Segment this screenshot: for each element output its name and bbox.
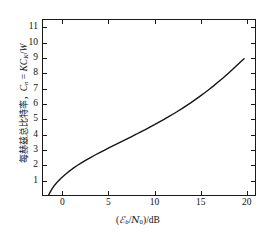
y-tick-mark bbox=[42, 119, 47, 120]
y-tick-mark-right bbox=[251, 104, 256, 105]
x-tick-mark-top bbox=[247, 19, 248, 24]
y-axis-title-k: K bbox=[19, 65, 29, 71]
x-axis-title-unit: dB bbox=[149, 215, 160, 225]
x-axis-title-n0: N bbox=[131, 214, 139, 225]
y-tick-mark bbox=[42, 89, 47, 90]
y-axis-title: 每赫兹总比特率，Cn = KCK/W bbox=[17, 11, 30, 197]
y-tick-mark bbox=[42, 58, 47, 59]
y-axis-title-symbol: C bbox=[19, 85, 29, 91]
y-tick-mark bbox=[42, 104, 47, 105]
y-tick-mark bbox=[42, 150, 47, 151]
y-tick-mark-right bbox=[251, 150, 256, 151]
y-tick-mark-right bbox=[251, 119, 256, 120]
y-tick-mark bbox=[42, 43, 47, 44]
x-tick-label: 5 bbox=[95, 198, 121, 208]
x-tick-mark bbox=[108, 191, 109, 196]
x-tick-mark bbox=[201, 191, 202, 196]
y-axis-title-equals: = bbox=[19, 71, 29, 81]
y-axis-title-cjk: 每赫兹总比特率， bbox=[19, 91, 29, 163]
y-tick-mark-right bbox=[251, 58, 256, 59]
chart-figure: 123456789101105101520 (ℰb/N0)/dB 每赫兹总比特率… bbox=[0, 0, 276, 237]
y-tick-mark bbox=[42, 135, 47, 136]
y-axis-title-symbol-sub: n bbox=[22, 82, 29, 85]
y-tick-mark bbox=[42, 73, 47, 74]
y-tick-mark-right bbox=[251, 181, 256, 182]
x-tick-mark bbox=[62, 191, 63, 196]
y-tick-mark bbox=[42, 27, 47, 28]
x-tick-mark-top bbox=[108, 19, 109, 24]
y-tick-mark-right bbox=[251, 27, 256, 28]
x-tick-mark bbox=[155, 191, 156, 196]
y-tick-mark bbox=[42, 181, 47, 182]
x-tick-mark-top bbox=[62, 19, 63, 24]
y-tick-mark bbox=[42, 165, 47, 166]
y-tick-mark-right bbox=[251, 135, 256, 136]
x-tick-label: 15 bbox=[188, 198, 214, 208]
x-tick-label: 0 bbox=[49, 198, 75, 208]
y-tick-mark-right bbox=[251, 165, 256, 166]
x-tick-mark-top bbox=[201, 19, 202, 24]
x-tick-label: 10 bbox=[142, 198, 168, 208]
y-tick-mark-right bbox=[251, 89, 256, 90]
x-tick-mark-top bbox=[155, 19, 156, 24]
y-axis-title-c-sub: K bbox=[22, 54, 29, 59]
x-axis-title: (ℰb/N0)/dB bbox=[0, 214, 276, 225]
y-axis-title-w: W bbox=[19, 44, 29, 52]
y-axis-title-expr-slash: / bbox=[19, 52, 29, 55]
series-line bbox=[49, 59, 244, 195]
x-tick-mark bbox=[247, 191, 248, 196]
y-axis-title-c: C bbox=[19, 59, 29, 65]
y-tick-mark-right bbox=[251, 43, 256, 44]
y-tick-mark-right bbox=[251, 73, 256, 74]
plot-area bbox=[42, 19, 256, 196]
x-tick-label: 20 bbox=[234, 198, 260, 208]
capacity-curve-svg bbox=[43, 20, 255, 195]
